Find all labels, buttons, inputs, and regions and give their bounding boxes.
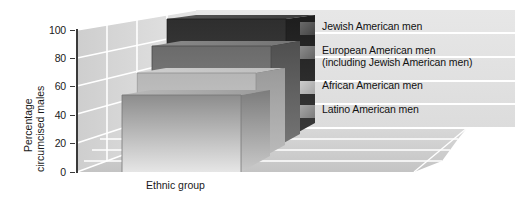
- legend-label: Jewish American men: [322, 21, 422, 33]
- legend-swatch-icon: [300, 46, 315, 59]
- y-tick-label-80: 80: [40, 53, 66, 63]
- legend-item-latino-american-men[interactable]: Latino American men: [300, 104, 419, 118]
- legend-swatch-icon: [300, 81, 315, 94]
- legend-item-jewish-american-men[interactable]: Jewish American men: [300, 21, 422, 35]
- y-axis-title-line1: Percentage: [22, 98, 34, 152]
- legend-swatch-icon: [300, 105, 315, 118]
- x-axis-title: Ethnic group: [146, 179, 205, 191]
- y-tick-60: [70, 86, 75, 87]
- y-tick-80: [70, 58, 75, 59]
- y-tick-20: [70, 143, 75, 144]
- y-tick-0: [70, 172, 75, 173]
- chart-figure: 100 80 60 40 20 0 Percentage circumcised…: [0, 0, 515, 198]
- legend-item-african-american-men[interactable]: African American men: [300, 80, 423, 94]
- y-tick-label-100: 100: [40, 25, 66, 35]
- legend-swatch-icon: [300, 22, 315, 35]
- y-tick-40: [70, 115, 75, 116]
- bar-latino-american-men: [122, 90, 270, 172]
- legend-label: European American men (including Jewish …: [322, 45, 472, 68]
- y-axis-line: [76, 29, 78, 173]
- legend-label: African American men: [322, 80, 423, 92]
- legend-label: Latino American men: [322, 104, 419, 116]
- chart-legend: Jewish American men European American me…: [300, 10, 515, 128]
- legend-item-european-american-men[interactable]: European American men (including Jewish …: [300, 45, 472, 68]
- y-tick-100: [70, 30, 75, 31]
- y-axis-title-line2: circumcised males: [34, 86, 46, 172]
